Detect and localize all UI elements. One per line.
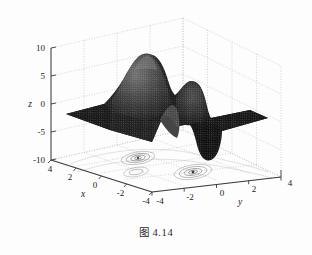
y-axis-label: y (237, 197, 243, 207)
z-axis-ticks (51, 47, 56, 160)
z-tick-2: 0 (41, 99, 46, 109)
figure-container: 10 5 0 -5 -10 4 2 0 -2 -4 -4 -2 0 2 4 (0, 0, 312, 255)
surface-mesh (66, 54, 268, 161)
grid-base-plane (51, 130, 281, 192)
y-tick-4: 4 (288, 178, 293, 188)
z-tick-3: -5 (38, 127, 46, 137)
x-tick-labels: 4 2 0 -2 -4 (48, 164, 150, 206)
contour-outer-faint (70, 149, 272, 178)
figure-caption: 图 4.14 (139, 224, 174, 239)
z-tick-0: 10 (36, 43, 46, 53)
surface-plot: 10 5 0 -5 -10 4 2 0 -2 -4 -4 -2 0 2 4 (0, 0, 312, 222)
x-axis-label: x (80, 189, 86, 199)
contour-group-saddle (123, 166, 149, 179)
figure-caption-row: 图 4.14 (0, 224, 312, 239)
y-tick-3: 2 (252, 184, 257, 194)
z-tick-labels: 10 5 0 -5 -10 (33, 43, 46, 165)
y-tick-0: -4 (156, 196, 164, 206)
plot-svg: 10 5 0 -5 -10 4 2 0 -2 -4 -4 -2 0 2 4 (0, 0, 312, 222)
z-tick-4: -10 (33, 155, 45, 165)
x-tick-3: -2 (117, 188, 125, 198)
contour-group-peak (120, 149, 156, 167)
contour-group-valley (173, 162, 213, 182)
y-tick-2: 0 (220, 188, 225, 198)
z-tick-1: 5 (41, 71, 46, 81)
x-tick-4: -4 (142, 196, 150, 206)
z-axis-label: z (27, 99, 32, 109)
x-tick-2: 0 (93, 180, 98, 190)
x-tick-1: 2 (68, 172, 73, 182)
x-tick-0: 4 (48, 164, 53, 174)
x-axis-ticks (48, 160, 152, 195)
y-tick-1: -2 (186, 192, 194, 202)
y-tick-labels: -4 -2 0 2 4 (156, 178, 293, 206)
surface-mesh-texture (66, 54, 268, 161)
